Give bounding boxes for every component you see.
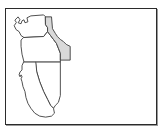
state-washington[interactable] [14, 15, 47, 38]
map-panel [5, 8, 157, 125]
states-group [14, 15, 70, 117]
western-states-map[interactable] [6, 9, 156, 124]
